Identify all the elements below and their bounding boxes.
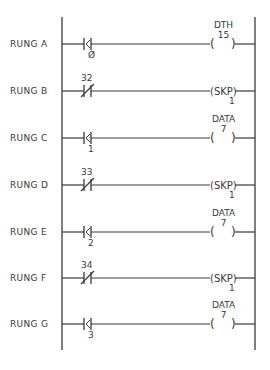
- k-contact-icon: [84, 38, 91, 50]
- coil-parameter: 1: [229, 190, 235, 200]
- rung-g: RUNG G3()DATA7: [10, 300, 255, 340]
- coil-function-label: DATA: [212, 114, 236, 124]
- coil-function-value: 7: [221, 218, 227, 228]
- k-contact-icon: [84, 132, 91, 144]
- contact-address: 1: [88, 144, 94, 154]
- contact-address: 3: [88, 330, 94, 340]
- coil-function-value: 7: [221, 124, 227, 134]
- coil-left-paren-icon: (: [210, 317, 215, 331]
- k-contact-icon: [84, 318, 91, 330]
- rung-label: RUNG B: [10, 86, 47, 96]
- coil-left-paren-icon: (: [210, 131, 215, 145]
- coil-function-value: 15: [218, 30, 229, 40]
- rung-a: RUNG AØ()DTH15: [10, 20, 255, 60]
- contact-k-mark: [86, 134, 90, 142]
- contact-address: 2: [88, 238, 94, 248]
- coil-left-paren-icon: (: [210, 225, 215, 239]
- ladder-diagram: RUNG AØ()DTH15RUNG B32(SKP)1RUNG C1()DAT…: [0, 0, 270, 370]
- rung-label: RUNG A: [10, 39, 48, 49]
- rung-label: RUNG E: [10, 227, 47, 237]
- rung-label: RUNG D: [10, 180, 48, 190]
- rung-label: RUNG C: [10, 133, 48, 143]
- coil-right-paren-icon: ): [231, 131, 236, 145]
- rung-label: RUNG F: [10, 273, 46, 283]
- contact-address: 32: [81, 73, 92, 83]
- coil-parameter: 1: [229, 96, 235, 106]
- contact-k-mark: [86, 320, 90, 328]
- skip-coil-icon: (SKP): [210, 86, 237, 97]
- skip-coil-icon: (SKP): [210, 180, 237, 191]
- rung-e: RUNG E2()DATA7: [10, 208, 255, 248]
- coil-function-label: DTH: [214, 20, 233, 30]
- coil-function-value: 7: [221, 310, 227, 320]
- skip-coil-icon: (SKP): [210, 273, 237, 284]
- coil-right-paren-icon: ): [231, 37, 236, 51]
- contact-address: Ø: [88, 50, 95, 60]
- rungs-group: RUNG AØ()DTH15RUNG B32(SKP)1RUNG C1()DAT…: [10, 20, 255, 340]
- rung-d: RUNG D33(SKP)1: [10, 167, 255, 200]
- contact-address: 34: [81, 260, 93, 270]
- rung-f: RUNG F34(SKP)1: [10, 260, 255, 293]
- rung-b: RUNG B32(SKP)1: [10, 73, 255, 106]
- coil-parameter: 1: [229, 283, 235, 293]
- coil-function-label: DATA: [212, 208, 236, 218]
- contact-k-mark: [86, 228, 90, 236]
- contact-k-mark: [86, 40, 90, 48]
- coil-right-paren-icon: ): [231, 225, 236, 239]
- coil-function-label: DATA: [212, 300, 236, 310]
- contact-address: 33: [81, 167, 92, 177]
- rung-label: RUNG G: [10, 319, 48, 329]
- coil-right-paren-icon: ): [231, 317, 236, 331]
- rung-c: RUNG C1()DATA7: [10, 114, 255, 154]
- k-contact-icon: [84, 226, 91, 238]
- coil-left-paren-icon: (: [210, 37, 215, 51]
